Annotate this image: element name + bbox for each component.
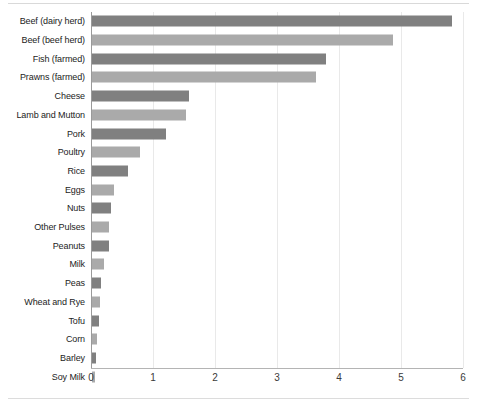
category-label: Cheese [0, 91, 85, 102]
bar [92, 222, 109, 233]
category-label: Tofu [0, 315, 85, 326]
bar [92, 147, 140, 158]
category-label: Milk [0, 259, 85, 270]
bar-row: Barley [0, 349, 477, 368]
bar-row: Cheese [0, 87, 477, 106]
bar [92, 91, 189, 102]
x-tick-label: 4 [329, 372, 349, 384]
bar-row: Milk [0, 255, 477, 274]
bar-row: Tofu [0, 311, 477, 330]
category-label: Rice [0, 165, 85, 176]
category-label: Nuts [0, 203, 85, 214]
x-tick-label: 5 [391, 372, 411, 384]
bar-row: Fish (farmed) [0, 49, 477, 68]
bar [92, 278, 101, 289]
category-label: Beef (beef herd) [0, 35, 85, 46]
category-label: Eggs [0, 184, 85, 195]
bar-row: Corn [0, 330, 477, 349]
bar-row: Pork [0, 124, 477, 143]
bar [92, 203, 111, 214]
category-label: Soy Milk [0, 371, 85, 382]
category-label: Poultry [0, 147, 85, 158]
bar-row: Other Pulses [0, 218, 477, 237]
category-label: Other Pulses [0, 222, 85, 233]
x-tick-label: 6 [453, 372, 473, 384]
bar [92, 240, 109, 251]
x-tick-label: 2 [205, 372, 225, 384]
bar-row: Rice [0, 162, 477, 181]
bar-row: Poultry [0, 143, 477, 162]
category-label: Corn [0, 334, 85, 345]
bar [92, 352, 96, 363]
bar-row: Peanuts [0, 236, 477, 255]
category-label: Wheat and Rye [0, 296, 85, 307]
x-tick-label: 3 [267, 372, 287, 384]
bar-row: Lamb and Mutton [0, 106, 477, 125]
bar [92, 53, 326, 64]
bar [92, 334, 97, 345]
bar [92, 35, 393, 46]
bar-row: Beef (beef herd) [0, 31, 477, 50]
category-label: Beef (dairy herd) [0, 16, 85, 27]
x-tick-label: 0 [81, 372, 101, 384]
category-label: Fish (farmed) [0, 53, 85, 64]
bar [92, 128, 166, 139]
bar [92, 259, 104, 270]
bar-row: Nuts [0, 199, 477, 218]
bar [92, 184, 114, 195]
bar [92, 72, 316, 83]
bar [92, 16, 452, 27]
bar-row: Eggs [0, 180, 477, 199]
x-tick-label: 1 [143, 372, 163, 384]
bar-row: Peas [0, 274, 477, 293]
bar-row: Prawns (farmed) [0, 68, 477, 87]
category-label: Barley [0, 352, 85, 363]
category-label: Peanuts [0, 240, 85, 251]
bar [92, 165, 128, 176]
bar [92, 315, 99, 326]
category-label: Pork [0, 128, 85, 139]
bar-row: Beef (dairy herd) [0, 12, 477, 31]
bar-row: Wheat and Rye [0, 293, 477, 312]
bar [92, 109, 186, 120]
category-label: Prawns (farmed) [0, 72, 85, 83]
bar [92, 296, 100, 307]
category-label: Lamb and Mutton [0, 109, 85, 120]
category-label: Peas [0, 278, 85, 289]
horizontal-bar-chart: Beef (dairy herd)Beef (beef herd)Fish (f… [0, 0, 477, 405]
